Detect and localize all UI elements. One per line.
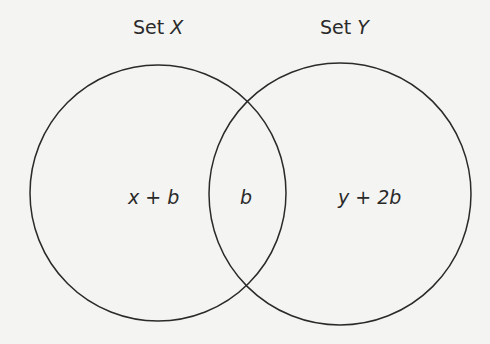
region-only-y-label: y + 2b [338, 186, 401, 208]
set-y-prefix: Set [320, 16, 351, 38]
venn-diagram [0, 0, 490, 344]
region-intersection-label: b [240, 186, 252, 208]
set-x-label: Set X [133, 16, 183, 38]
set-y-label: Set Y [320, 16, 369, 38]
set-x-prefix: Set [133, 16, 164, 38]
region-only-x-label: x + b [128, 186, 179, 208]
set-y-var: Y [357, 16, 369, 38]
set-x-var: X [170, 16, 183, 38]
